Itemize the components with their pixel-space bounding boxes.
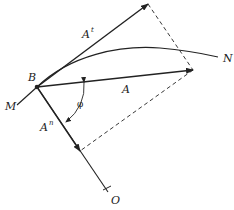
vector-a-tangential [37, 4, 148, 87]
label-b: B [27, 71, 36, 84]
label-n: N [222, 52, 233, 65]
projection-dashed-tangential [148, 4, 193, 70]
label-a-tangential-sup: t [91, 26, 94, 34]
point-b-marker [35, 85, 40, 90]
label-o: O [111, 194, 120, 207]
label-a-tangential: A [81, 28, 90, 41]
label-phi: φ [77, 99, 83, 109]
label-a: A [121, 83, 130, 96]
tangent-line [17, 87, 37, 105]
label-a-normal-sup: n [49, 119, 54, 127]
label-m: M [4, 100, 17, 113]
vector-a [37, 70, 193, 87]
vector-a-normal [37, 87, 80, 151]
projection-dashed-normal [80, 70, 193, 151]
vector-diagram: B M N O A A t A n φ [0, 0, 234, 210]
label-a-normal: A [39, 121, 48, 134]
